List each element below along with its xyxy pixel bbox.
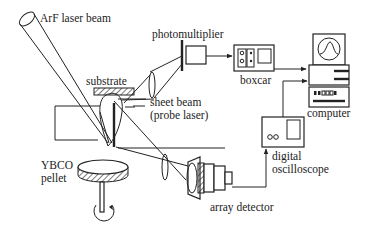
digital-oscilloscope [262,117,304,147]
substrate [94,88,134,95]
array-detector [187,157,266,199]
sheet-beam-label: sheet beam [150,96,201,108]
array-detector-label: array detector [210,201,274,213]
photomultiplier-label: photomultiplier [152,28,224,40]
photomultiplier [182,40,206,71]
digital-label: digital [272,150,301,162]
pellet-label: pellet [41,172,67,184]
plume [100,93,122,146]
ybco-pellet [78,160,128,221]
probe-laser-label: (probe laser) [150,109,208,121]
scope-to-computer-arrow [283,81,307,117]
oscilloscope-label: oscilloscope [272,163,329,175]
computer [309,34,349,107]
ybco-label: YBCO [41,159,73,171]
boxcar-label: boxcar [240,74,271,86]
substrate-label: substrate [86,75,127,87]
boxcar [234,45,274,71]
laser-beam-label: ArF laser beam [40,12,111,24]
computer-label: computer [307,107,350,119]
